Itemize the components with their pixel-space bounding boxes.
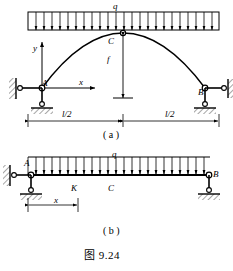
crown-hinge-c bbox=[120, 30, 125, 35]
support-label-b-arch: B bbox=[198, 88, 204, 97]
arch-rib bbox=[42, 33, 205, 88]
load-label-b: q bbox=[112, 150, 117, 159]
panel-a-arch bbox=[9, 12, 233, 127]
midpoint-label-c: C bbox=[108, 184, 114, 193]
load-label-a: q bbox=[113, 2, 118, 11]
support-label-b-beam: B bbox=[213, 170, 219, 179]
support-label-a-beam: A bbox=[24, 159, 30, 168]
half-span-label-left: l/2 bbox=[62, 110, 72, 119]
support-label-a-arch: A bbox=[42, 79, 48, 88]
coordinate-axes-a bbox=[42, 42, 95, 88]
panel-sublabel-a: ( a ) bbox=[103, 130, 119, 140]
rise-label-f: f bbox=[107, 55, 110, 64]
distributed-load-b bbox=[28, 157, 210, 175]
half-span-label-right: l/2 bbox=[165, 110, 175, 119]
distance-label-x: x bbox=[54, 196, 58, 205]
figure-caption: 图 9.24 bbox=[84, 250, 120, 261]
section-label-k: K bbox=[71, 184, 77, 193]
figure-page: q C f y x A B l/2 l/2 ( a ) q A K C B x … bbox=[0, 0, 233, 271]
axis-label-x: x bbox=[79, 78, 83, 87]
distributed-load-a bbox=[28, 12, 219, 31]
axis-label-y: y bbox=[33, 44, 37, 53]
panel-sublabel-b: ( b ) bbox=[103, 226, 120, 236]
crown-label-c: C bbox=[108, 37, 114, 46]
x-dimension-b bbox=[28, 198, 78, 212]
rise-dimension-f bbox=[113, 36, 133, 98]
span-dimension-a bbox=[28, 114, 219, 127]
